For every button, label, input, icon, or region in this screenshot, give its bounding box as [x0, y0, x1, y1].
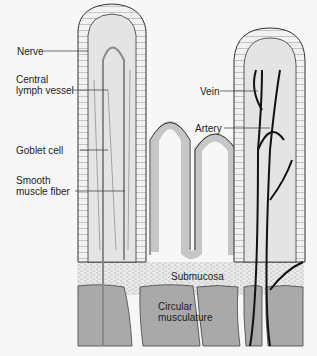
label-central-lymph-vessel-line2: lymph vessel	[16, 85, 74, 96]
label-nerve: Nerve	[17, 46, 44, 57]
label-circular-musculature-line2: musculature	[158, 312, 212, 323]
villi-diagram: Nerve Central lymph vessel Goblet cell S…	[0, 0, 317, 356]
label-smooth-muscle-fiber-line1: Smooth	[16, 175, 50, 186]
label-artery: Artery	[195, 123, 222, 134]
label-goblet-cell: Goblet cell	[16, 145, 63, 156]
small-villus	[155, 125, 232, 255]
label-central-lymph-vessel-line1: Central	[16, 74, 48, 85]
label-circular-musculature-line1: Circular	[158, 301, 192, 312]
label-smooth-muscle-fiber-line2: muscle fiber	[16, 186, 70, 197]
label-vein: Vein	[200, 86, 219, 97]
label-submucosa: Submucosa	[171, 271, 224, 282]
